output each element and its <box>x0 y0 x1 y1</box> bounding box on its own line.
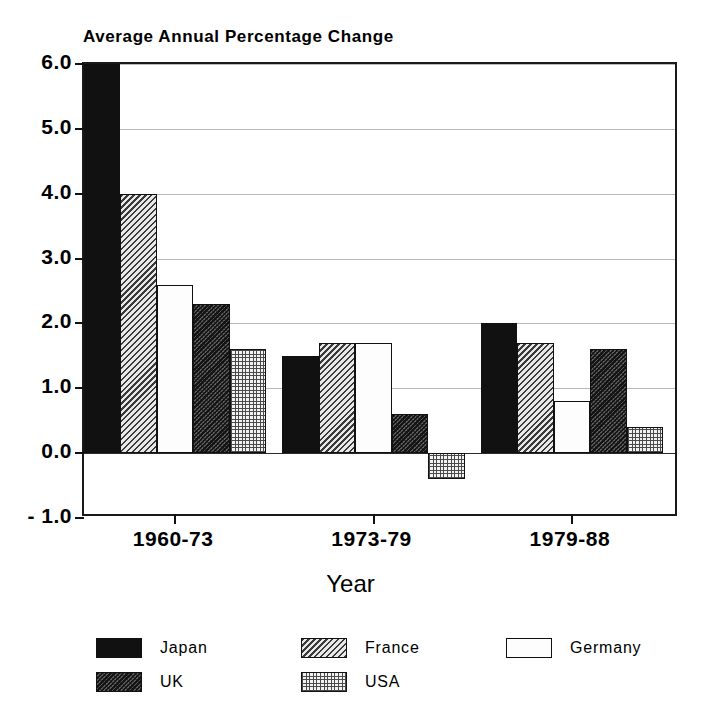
gridline <box>84 259 675 260</box>
legend-swatch-japan <box>96 638 142 658</box>
y-axis-tick <box>75 193 84 195</box>
bar <box>590 349 627 453</box>
legend-item[interactable]: USA <box>301 670 400 694</box>
bar <box>554 401 591 453</box>
x-axis-tick <box>373 514 375 524</box>
gridline <box>84 453 675 454</box>
bar <box>517 343 554 453</box>
bar <box>428 453 465 479</box>
legend-item[interactable]: Japan <box>96 636 208 660</box>
y-axis-tick-label: 2.0 <box>41 309 72 333</box>
chart-legend: JapanFranceGermanyUKUSA <box>96 636 656 702</box>
y-axis-tick-label: 5.0 <box>41 115 72 139</box>
gridline <box>84 129 675 130</box>
legend-swatch-uk <box>96 672 142 692</box>
y-axis-tick-label: 1.0 <box>41 374 72 398</box>
legend-swatch-germany <box>506 638 552 658</box>
legend-label: UK <box>160 673 184 691</box>
y-axis-tick <box>75 387 84 389</box>
y-axis-tick <box>75 517 84 519</box>
legend-label: Germany <box>570 639 641 657</box>
y-axis-tick <box>75 128 84 130</box>
y-axis-tick <box>75 322 84 324</box>
gridline <box>84 194 675 195</box>
bar <box>355 343 392 453</box>
chart-title: Average Annual Percentage Change <box>83 27 394 47</box>
legend-label: USA <box>365 673 400 691</box>
bar <box>84 64 121 453</box>
x-axis-tick-label: 1979-88 <box>530 527 611 551</box>
y-axis-tick-label: 4.0 <box>41 180 72 204</box>
x-axis-tick <box>174 514 176 524</box>
plot-area <box>82 62 677 516</box>
y-axis-tick-label: - 1.0 <box>27 504 72 528</box>
legend-swatch-usa <box>301 672 347 692</box>
y-axis-tick <box>75 63 84 65</box>
legend-item[interactable]: UK <box>96 670 184 694</box>
legend-swatch-france <box>301 638 347 658</box>
legend-item[interactable]: France <box>301 636 420 660</box>
legend-label: France <box>365 639 420 657</box>
bar <box>319 343 356 453</box>
x-axis-labels: 1960-731973-791979-88 <box>82 527 677 559</box>
bar <box>193 304 230 453</box>
y-axis-tick <box>75 452 84 454</box>
bar <box>120 194 157 453</box>
legend-label: Japan <box>160 639 208 657</box>
x-axis-tick-label: 1960-73 <box>133 527 214 551</box>
x-axis-title: Year <box>0 570 701 598</box>
x-axis-tick <box>571 514 573 524</box>
bar <box>392 414 429 453</box>
legend-item[interactable]: Germany <box>506 636 641 660</box>
bar <box>157 285 194 454</box>
x-axis-tick-label: 1973-79 <box>331 527 412 551</box>
bar <box>481 323 518 453</box>
y-axis-tick-label: 0.0 <box>41 439 72 463</box>
bar <box>627 427 664 453</box>
y-axis-labels: 6.05.04.03.02.01.00.0- 1.0 <box>0 62 72 516</box>
y-axis-tick-label: 6.0 <box>41 50 72 74</box>
gridline <box>84 64 675 65</box>
bar <box>282 356 319 453</box>
bar-chart-figure: Average Annual Percentage Change 6.05.04… <box>0 0 701 717</box>
y-axis-tick <box>75 258 84 260</box>
y-axis-tick-label: 3.0 <box>41 245 72 269</box>
bar <box>230 349 267 453</box>
